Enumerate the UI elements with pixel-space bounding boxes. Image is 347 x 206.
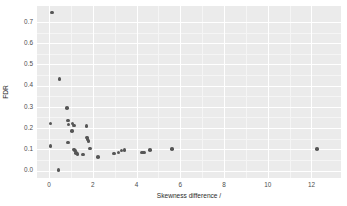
data-point [65, 106, 69, 110]
gridline-minor-horizontal [37, 96, 341, 97]
gridline-major-vertical [180, 6, 181, 178]
y-tick-label: 0.1 [24, 146, 33, 152]
gridline-minor-horizontal [37, 33, 341, 34]
gridline-major-vertical [137, 6, 138, 178]
plot-panel [37, 6, 341, 178]
gridline-major-horizontal [37, 107, 341, 108]
y-tick-label: 0.4 [24, 82, 33, 88]
data-point [170, 147, 174, 151]
x-tick-label: 4 [135, 182, 139, 188]
gridline-major-horizontal [37, 22, 341, 23]
gridline-minor-horizontal [37, 75, 341, 76]
data-point [67, 123, 71, 127]
gridline-major-vertical [311, 6, 312, 178]
y-tick-label: 0.6 [24, 40, 33, 46]
data-point [117, 151, 121, 155]
scatter-plot-figure: 0.00.10.20.30.40.50.60.7 024681012 FDR S… [0, 0, 347, 206]
x-tick-label: 0 [47, 182, 51, 188]
gridline-minor-horizontal [37, 139, 341, 140]
y-tick-label: 0.5 [24, 61, 33, 67]
gridline-major-vertical [93, 6, 94, 178]
gridline-major-vertical [224, 6, 225, 178]
gridline-major-vertical [49, 6, 50, 178]
x-axis-title: Skewness difference / [37, 192, 341, 199]
y-tick-label: 0.3 [24, 104, 33, 110]
gridline-minor-horizontal [37, 117, 341, 118]
data-point [148, 148, 152, 152]
gridline-major-horizontal [37, 149, 341, 150]
y-tick-label: 0.2 [24, 125, 33, 131]
x-tick-label: 10 [264, 182, 271, 188]
data-point [112, 152, 116, 156]
gridline-minor-horizontal [37, 54, 341, 55]
gridline-major-horizontal [37, 128, 341, 129]
data-point [96, 155, 100, 159]
data-point [81, 153, 85, 157]
x-tick-label: 8 [222, 182, 226, 188]
data-point [49, 122, 53, 126]
gridline-major-vertical [268, 6, 269, 178]
gridline-major-horizontal [37, 43, 341, 44]
data-point [50, 11, 54, 15]
data-point [58, 77, 62, 81]
data-point [123, 148, 127, 152]
data-point [87, 139, 91, 143]
x-tick-label: 6 [178, 182, 182, 188]
gridline-major-horizontal [37, 86, 341, 87]
gridline-major-horizontal [37, 171, 341, 172]
y-tick-label: 0.7 [24, 19, 33, 25]
x-tick-label: 12 [308, 182, 315, 188]
data-point [70, 129, 74, 133]
data-point [66, 141, 70, 145]
gridline-minor-horizontal [37, 160, 341, 161]
data-point [315, 147, 319, 151]
x-tick-label: 2 [91, 182, 95, 188]
y-tick-label: 0.0 [24, 167, 33, 173]
gridline-major-horizontal [37, 64, 341, 65]
y-axis-title: FDR [2, 85, 9, 99]
data-point [66, 119, 70, 123]
data-point [72, 124, 76, 128]
data-point [76, 152, 80, 156]
data-point [49, 144, 53, 148]
data-point [142, 151, 146, 155]
